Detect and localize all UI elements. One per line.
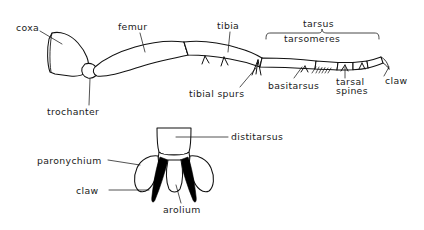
trochanter-leader: [89, 79, 90, 105]
label-distitarsus: distitarsus: [231, 131, 283, 142]
label-trochanter: trochanter: [47, 106, 99, 117]
label-tarsal-spines-line2: spines: [336, 85, 368, 96]
label-arolium: arolium: [163, 204, 201, 215]
distal-tarsomere-shape: [367, 57, 383, 68]
label-tibial-spurs: tibial spurs: [189, 88, 244, 99]
label-tibia: tibia: [217, 20, 239, 31]
label-tarsomeres: tarsomeres: [284, 33, 340, 44]
label-coxa: coxa: [16, 22, 39, 33]
basitarsus-shape: [260, 58, 316, 69]
basitarsus-leader: [294, 67, 302, 78]
label-paronychium: paronychium: [37, 155, 102, 166]
diagram-canvas: coxa trochanter femur tibia tibial spurs…: [0, 0, 424, 230]
tibial-spurs-leader: [240, 68, 256, 87]
tibia-spine-group: [202, 56, 228, 66]
paronychium-leader: [108, 160, 140, 165]
label-claw-upper: claw: [385, 75, 407, 86]
label-tarsus: tarsus: [303, 18, 334, 29]
arolium-shape: [167, 160, 183, 192]
distitarsus-shape: [157, 128, 191, 155]
label-femur: femur: [118, 21, 148, 32]
label-claw-lower: claw: [76, 185, 98, 196]
femur-shape: [93, 41, 188, 76]
label-basitarsus: basitarsus: [268, 80, 319, 91]
pretarsus-drawing: [135, 128, 214, 202]
insect-leg-diagram: coxa trochanter femur tibia tibial spurs…: [0, 0, 424, 230]
tibia-shape: [184, 41, 262, 67]
